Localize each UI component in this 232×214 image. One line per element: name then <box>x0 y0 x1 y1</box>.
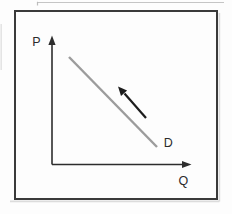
demand-curve-label: D <box>164 136 173 150</box>
page-background <box>0 0 232 214</box>
x-axis-label: Q <box>178 174 188 188</box>
y-axis-label: P <box>32 35 41 49</box>
demand-curve-figure: P Q D <box>0 0 232 214</box>
demand-curve-diagram: P Q D <box>0 0 232 214</box>
